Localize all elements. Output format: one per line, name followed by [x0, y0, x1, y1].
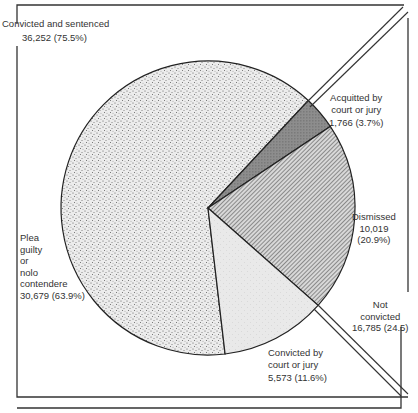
label-line: 16,785 (24.5)	[352, 322, 409, 334]
label-convicted-and-sentenced: Convicted and sentenced 36,252 (75.5%)	[2, 18, 109, 43]
label-line: contendere	[20, 278, 85, 290]
label-line: Plea	[20, 232, 85, 244]
label-line: Convicted by	[268, 347, 327, 359]
label-line: convicted	[352, 311, 409, 323]
label-line: Not	[352, 299, 409, 311]
label-line: 10,019	[352, 223, 396, 235]
label-line: Dismissed	[352, 211, 396, 223]
label-convicted-by-court: Convicted by court or jury 5,573 (11.6%)	[268, 347, 327, 384]
label-line: or	[20, 255, 85, 267]
label-plea-guilty: Plea guilty or nolo contendere 30,679 (6…	[20, 232, 85, 301]
label-not-convicted: Not convicted 16,785 (24.5)	[352, 299, 409, 334]
label-line: guilty	[20, 244, 85, 256]
label-line: 1,766 (3.7%)	[329, 117, 383, 129]
label-line: Acquitted by	[329, 92, 383, 104]
label-line: court or jury	[268, 359, 327, 371]
label-line: nolo	[20, 267, 85, 279]
label-line: 36,252 (75.5%)	[2, 32, 109, 44]
label-line: Convicted and sentenced	[2, 18, 109, 30]
label-line: (20.9%)	[352, 234, 396, 246]
pie-chart	[0, 0, 418, 413]
label-line: 30,679 (63.9%)	[20, 290, 85, 302]
label-acquitted: Acquitted by court or jury 1,766 (3.7%)	[329, 92, 383, 129]
label-dismissed: Dismissed 10,019 (20.9%)	[352, 211, 396, 246]
label-line: 5,573 (11.6%)	[268, 372, 327, 384]
label-line: court or jury	[329, 104, 383, 116]
